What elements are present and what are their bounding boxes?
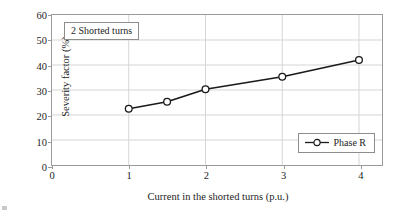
x-axis-title: Current in the shorted turns (p.u.) <box>52 191 384 202</box>
y-tick-mark <box>48 40 52 41</box>
y-tick-label: 30 <box>37 86 48 97</box>
x-tick-label: 4 <box>358 170 363 181</box>
y-tick-label: 20 <box>37 111 48 122</box>
y-tick-label: 50 <box>37 35 48 46</box>
legend: Phase R <box>298 133 376 153</box>
x-tick-mark <box>52 165 53 169</box>
legend-entry-label: Phase R <box>334 137 367 148</box>
y-tick-mark <box>48 91 52 92</box>
annotation-label: 2 Shorted turns <box>64 22 139 40</box>
x-tick-mark <box>284 165 285 169</box>
y-tick-mark <box>48 116 52 117</box>
x-tick-mark <box>129 165 130 169</box>
x-tick-label: 2 <box>204 170 209 181</box>
y-tick-label: 0 <box>42 162 47 173</box>
y-tick-label: 10 <box>37 136 48 147</box>
y-tick-mark <box>48 142 52 143</box>
x-tick-label: 3 <box>281 170 286 181</box>
x-tick-label: 1 <box>127 170 132 181</box>
scan-artifact <box>2 206 7 210</box>
y-tick-label: 40 <box>37 60 48 71</box>
y-tick-mark <box>48 15 52 16</box>
y-tick-label: 60 <box>37 10 48 21</box>
open-circle-marker-icon <box>305 138 329 147</box>
x-tick-mark <box>361 165 362 169</box>
plot-area: 0102030405060 01234 Severity factor (%) … <box>51 14 383 166</box>
y-tick-mark <box>48 66 52 67</box>
x-tick-label: 0 <box>49 170 54 181</box>
chart-figure: 0102030405060 01234 Severity factor (%) … <box>0 0 404 212</box>
x-tick-mark <box>206 165 207 169</box>
